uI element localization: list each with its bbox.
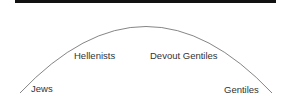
label-jews: Jews <box>31 83 53 94</box>
label-gentiles: Gentiles <box>224 84 259 95</box>
label-devout-gentiles: Devout Gentiles <box>150 50 218 61</box>
label-hellenists: Hellenists <box>74 50 115 61</box>
